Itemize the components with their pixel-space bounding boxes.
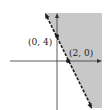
- shaded-region: [45, 13, 102, 108]
- label-point-0-4: (0, 4): [28, 37, 52, 47]
- inequality-graph: (0, 4) (2, 0): [0, 0, 108, 110]
- boundary-arrow-bottom-icon: [88, 103, 93, 109]
- point-0-4: [55, 34, 59, 38]
- label-point-2-0: (2, 0): [69, 48, 93, 58]
- point-2-0: [66, 59, 70, 63]
